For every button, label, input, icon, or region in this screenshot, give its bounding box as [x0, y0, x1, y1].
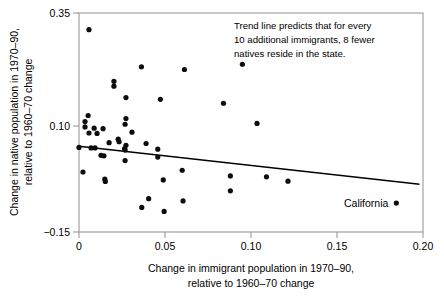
scatter-point: [101, 153, 106, 158]
annotation-line-3: natives reside in the state.: [234, 48, 345, 59]
scatter-point: [394, 200, 399, 205]
scatter-point: [139, 205, 144, 210]
scatter-point: [123, 147, 128, 152]
y-tick-label-2: −0.15: [43, 226, 70, 238]
scatter-point: [86, 130, 91, 135]
y-axis-title-line1: Change in native population in 1970–90,: [8, 28, 20, 216]
scatter-point: [129, 130, 134, 135]
scatter-point: [123, 122, 128, 127]
scatter-point: [92, 145, 97, 150]
scatter-point: [86, 113, 91, 118]
scatter-point: [116, 139, 121, 144]
scatter-point: [82, 119, 87, 124]
x-axis-title-line2: relative to 1960–70 change: [188, 277, 315, 289]
scatter-point: [228, 188, 233, 193]
x-tick-label-3: 0.15: [327, 240, 348, 252]
x-tick-label-4: 0.20: [413, 240, 434, 252]
scatter-point: [76, 145, 81, 150]
scatter-point: [139, 64, 144, 69]
scatter-point: [182, 67, 187, 72]
point-label-california: California: [344, 197, 389, 209]
annotation-line-2: 10 additional immigrants, 8 fewer: [234, 34, 376, 45]
scatter-point: [221, 101, 226, 106]
y-axis-title-line2: relative to 1960–70 change: [22, 59, 34, 186]
scatter-point: [100, 126, 105, 131]
annotation-line-1: Trend line predicts that for every: [234, 20, 371, 31]
scatter-point: [143, 141, 148, 146]
scatter-point: [264, 174, 269, 179]
x-tick-label-0: 0: [76, 240, 82, 252]
scatter-point: [254, 121, 259, 126]
scatter-point: [80, 169, 85, 174]
y-tick-label-0: 0.35: [50, 7, 71, 19]
point-labels-group: California: [344, 197, 389, 209]
x-axis-title-line1: Change in immigrant population in 1970–9…: [148, 262, 354, 274]
scatter-point: [228, 173, 233, 178]
x-tick-label-1: 0.05: [155, 240, 176, 252]
scatter-point: [158, 97, 163, 102]
scatter-point: [123, 116, 128, 121]
scatter-point: [155, 147, 160, 152]
figure-background: [0, 0, 444, 298]
y-tick-label-1: 0.10: [50, 120, 71, 132]
scatter-point: [103, 179, 108, 184]
scatter-point: [285, 179, 290, 184]
scatter-point: [111, 84, 116, 89]
scatter-point: [107, 140, 112, 145]
scatter-point: [162, 209, 167, 214]
scatter-point: [161, 177, 166, 182]
scatter-point: [180, 168, 185, 173]
scatter-point: [155, 155, 160, 160]
scatter-point: [123, 95, 128, 100]
scatter-point: [86, 27, 91, 32]
scatter-point: [240, 62, 245, 67]
x-tick-label-2: 0.10: [241, 240, 262, 252]
scatter-plot-figure: 0 0.05 0.10 0.15 0.20 0.35 0.10 −0.15 Ch…: [0, 0, 444, 298]
scatter-point: [180, 198, 185, 203]
scatter-point: [82, 124, 87, 129]
scatter-point: [94, 131, 99, 136]
scatter-point: [92, 126, 97, 131]
scatter-point: [146, 196, 151, 201]
scatter-point: [123, 158, 128, 163]
scatter-point: [111, 79, 116, 84]
